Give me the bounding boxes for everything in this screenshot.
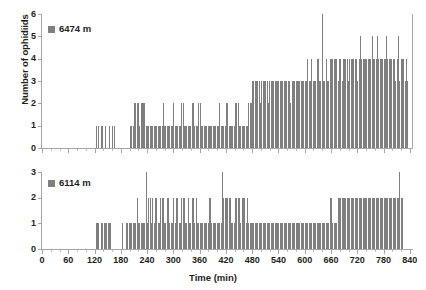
- x-tick-minor: [51, 149, 52, 151]
- y-tick-label: 0: [20, 144, 36, 153]
- x-tick-minor: [261, 250, 262, 252]
- x-tick-minor: [182, 149, 183, 151]
- x-tick-minor: [182, 250, 183, 252]
- plot-frame-right-top: [412, 14, 413, 148]
- legend-swatch-icon: [48, 26, 55, 33]
- x-tick-major: [226, 149, 227, 153]
- x-tick-major: [147, 149, 148, 153]
- x-tick-minor: [112, 149, 113, 151]
- x-tick-minor: [60, 250, 61, 252]
- x-tick-major: [252, 149, 253, 153]
- y-tick-label: 1: [20, 121, 36, 130]
- x-tick-minor: [191, 250, 192, 252]
- plot-area-top: [42, 14, 412, 148]
- x-tick-major: [173, 250, 174, 254]
- x-tick-minor: [401, 250, 402, 252]
- x-tick-minor: [217, 149, 218, 151]
- x-tick-minor: [375, 149, 376, 151]
- chart-panel-bottom: 0123 06012018024030036042048054060066072…: [0, 160, 426, 290]
- y-tick-label: 3: [20, 168, 36, 177]
- x-tick-major: [42, 149, 43, 153]
- x-tick-minor: [270, 149, 271, 151]
- x-tick-minor: [375, 250, 376, 252]
- x-tick-major: [200, 149, 201, 153]
- x-tick-minor: [217, 250, 218, 252]
- x-tick-minor: [130, 250, 131, 252]
- x-tick-major: [384, 149, 385, 153]
- y-tick-label: 2: [20, 99, 36, 108]
- x-tick-minor: [86, 250, 87, 252]
- bar: [96, 126, 97, 148]
- legend-top: 6474 m: [48, 24, 91, 34]
- y-tick-label: 0: [20, 245, 36, 254]
- bar: [102, 126, 103, 148]
- x-tick-major: [384, 250, 385, 254]
- x-tick-minor: [103, 149, 104, 151]
- x-tick-minor: [156, 250, 157, 252]
- legend-swatch-icon: [48, 180, 55, 187]
- x-tick-minor: [138, 149, 139, 151]
- x-tick-minor: [243, 250, 244, 252]
- x-tick-major: [68, 149, 69, 153]
- figure-container: Number of ophidiids 0123456 6474 m 0123 …: [0, 0, 426, 290]
- x-tick-minor: [392, 149, 393, 151]
- x-tick-minor: [349, 250, 350, 252]
- legend-label-top: 6474 m: [59, 24, 91, 34]
- x-tick-minor: [86, 149, 87, 151]
- x-tick-major: [68, 250, 69, 254]
- x-tick-minor: [296, 149, 297, 151]
- x-tick-major: [147, 250, 148, 254]
- x-tick-minor: [340, 149, 341, 151]
- x-tick-minor: [270, 250, 271, 252]
- x-tick-major: [357, 250, 358, 254]
- x-tick-minor: [208, 250, 209, 252]
- x-tick-minor: [191, 149, 192, 151]
- x-tick-minor: [366, 149, 367, 151]
- legend-bottom: 6114 m: [48, 178, 91, 188]
- x-tick-minor: [112, 250, 113, 252]
- x-tick-minor: [287, 250, 288, 252]
- x-tick-minor: [208, 149, 209, 151]
- bar: [402, 198, 403, 249]
- y-tick-label: 5: [20, 32, 36, 41]
- bar: [122, 223, 123, 249]
- x-tick-minor: [366, 250, 367, 252]
- x-tick-minor: [349, 149, 350, 151]
- bar: [110, 223, 111, 249]
- x-tick-minor: [51, 250, 52, 252]
- bar: [98, 126, 99, 148]
- x-tick-major: [200, 250, 201, 254]
- x-tick-minor: [60, 149, 61, 151]
- bar: [98, 223, 99, 249]
- x-tick-major: [252, 250, 253, 254]
- y-tick-label: 2: [20, 193, 36, 202]
- bar: [407, 81, 408, 148]
- x-tick-major: [410, 149, 411, 153]
- x-tick-minor: [77, 250, 78, 252]
- x-tick-major: [173, 149, 174, 153]
- x-tick-major: [121, 149, 122, 153]
- x-tick-minor: [103, 250, 104, 252]
- x-tick-minor: [322, 250, 323, 252]
- x-tick-minor: [340, 250, 341, 252]
- x-tick-major: [278, 250, 279, 254]
- x-tick-major: [95, 149, 96, 153]
- x-tick-minor: [130, 149, 131, 151]
- x-tick-major: [42, 250, 43, 254]
- x-tick-major: [121, 250, 122, 254]
- x-tick-minor: [165, 250, 166, 252]
- bar: [112, 126, 113, 148]
- x-tick-minor: [243, 149, 244, 151]
- bar: [105, 126, 106, 148]
- y-tick-label: 6: [20, 10, 36, 19]
- x-tick-minor: [313, 250, 314, 252]
- x-tick-major: [278, 149, 279, 153]
- x-tick-minor: [322, 149, 323, 151]
- y-tick-label: 4: [20, 54, 36, 63]
- x-tick-minor: [296, 250, 297, 252]
- x-tick-label: 840: [395, 256, 425, 265]
- x-tick-minor: [235, 149, 236, 151]
- x-tick-minor: [156, 149, 157, 151]
- chart-panel-top: Number of ophidiids 0123456 6474 m: [0, 0, 426, 155]
- x-tick-minor: [401, 149, 402, 151]
